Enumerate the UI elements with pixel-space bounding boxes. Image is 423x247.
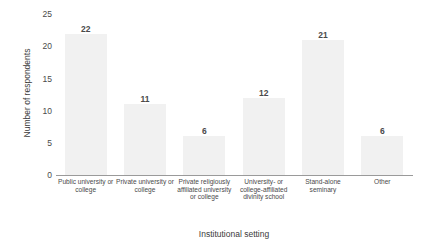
- x-category-label: Private university or college: [115, 178, 174, 226]
- bar-value-label: 21: [293, 30, 352, 40]
- x-axis-title: Institutional setting: [56, 229, 412, 240]
- bar-rect[interactable]: [183, 136, 225, 175]
- x-category-label: Other: [353, 178, 412, 226]
- y-tick-label: 0: [28, 171, 52, 180]
- bar-value-label: 22: [56, 24, 115, 34]
- y-tick-label: 20: [28, 42, 52, 51]
- x-category-label: Private religiously affiliated universit…: [175, 178, 234, 226]
- bar-group[interactable]: 11: [115, 14, 174, 175]
- y-tick-label: 25: [28, 10, 52, 19]
- bars-container: 22 11 6 12 21 6: [56, 14, 412, 175]
- x-category-label: Stand-alone seminary: [293, 178, 352, 226]
- bar-group[interactable]: 21: [293, 14, 352, 175]
- bar-group[interactable]: 6: [175, 14, 234, 175]
- bar-group[interactable]: 22: [56, 14, 115, 175]
- bar-chart: Number of respondents 25 20 15 10 5 0 22…: [0, 0, 423, 247]
- y-tick-label: 5: [28, 139, 52, 148]
- bar-rect[interactable]: [243, 98, 285, 175]
- bar-rect[interactable]: [65, 34, 107, 176]
- bar-group[interactable]: 6: [353, 14, 412, 175]
- bar-group[interactable]: 12: [234, 14, 293, 175]
- x-category-label: Public university or college: [56, 178, 115, 226]
- bar-rect[interactable]: [361, 136, 403, 175]
- x-axis-line: [56, 175, 413, 176]
- bar-rect[interactable]: [124, 104, 166, 175]
- y-axis-tick-labels: 25 20 15 10 5 0: [28, 0, 52, 247]
- bar-rect[interactable]: [302, 40, 344, 175]
- bar-value-label: 12: [234, 88, 293, 98]
- bar-value-label: 6: [353, 126, 412, 136]
- x-axis-category-labels: Public university or college Private uni…: [56, 178, 412, 226]
- y-tick-label: 10: [28, 107, 52, 116]
- x-category-label: University- or college-affiliated divini…: [234, 178, 293, 226]
- y-tick-label: 15: [28, 75, 52, 84]
- bar-value-label: 6: [175, 126, 234, 136]
- bar-value-label: 11: [115, 94, 174, 104]
